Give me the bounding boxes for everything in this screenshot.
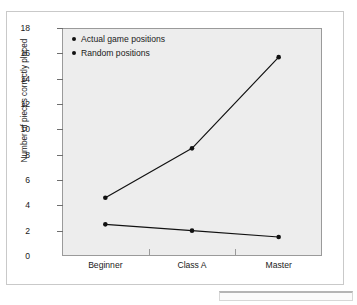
- x-tick-mark: [235, 249, 236, 256]
- y-tick-label: 10: [0, 124, 30, 134]
- y-tick-mark: [57, 231, 63, 232]
- y-tick-label: 0: [0, 251, 30, 261]
- y-tick-mark: [57, 53, 63, 54]
- footer-caption-box: [219, 291, 353, 301]
- y-tick-mark: [57, 180, 63, 181]
- y-tick-label: 14: [0, 74, 30, 84]
- legend-item-label: Actual game positions: [81, 35, 165, 44]
- legend-item-label: Random positions: [81, 49, 150, 58]
- x-tick-label-class-a: Class A: [147, 260, 237, 270]
- y-tick-mark: [57, 104, 63, 105]
- legend-item: Random positions: [72, 47, 165, 59]
- x-tick-mark: [149, 249, 150, 256]
- y-tick-label: 4: [0, 200, 30, 210]
- y-tick-mark: [57, 28, 63, 29]
- legend-dot-icon: [72, 51, 76, 55]
- y-tick-label: 2: [0, 226, 30, 236]
- y-tick-label: 8: [0, 150, 30, 160]
- y-tick-mark: [57, 79, 63, 80]
- line-chart: Number of pieces correctly placed 024681…: [0, 0, 357, 305]
- y-tick-label: 12: [0, 99, 30, 109]
- y-tick-mark: [57, 155, 63, 156]
- y-tick-label: 18: [0, 23, 30, 33]
- plot-area: [62, 28, 322, 256]
- x-tick-label-master: Master: [234, 260, 324, 270]
- y-tick-label: 6: [0, 175, 30, 185]
- x-tick-label-beginner: Beginner: [60, 260, 150, 270]
- legend-dot-icon: [72, 37, 76, 41]
- y-tick-label: 16: [0, 48, 30, 58]
- y-tick-mark: [57, 129, 63, 130]
- chart-legend: Actual game positionsRandom positions: [72, 33, 165, 59]
- y-tick-mark: [57, 205, 63, 206]
- legend-item: Actual game positions: [72, 33, 165, 45]
